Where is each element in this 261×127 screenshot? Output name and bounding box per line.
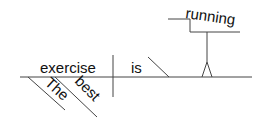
modifier-word-the: The: [42, 74, 73, 104]
complement-word: running: [185, 4, 237, 28]
pedestal-foot: [202, 62, 212, 77]
sentence-diagram: exercise is The best running: [0, 0, 261, 127]
verb-word: is: [131, 59, 142, 76]
subject-word: exercise: [40, 59, 96, 76]
complement-divider: [148, 57, 169, 77]
